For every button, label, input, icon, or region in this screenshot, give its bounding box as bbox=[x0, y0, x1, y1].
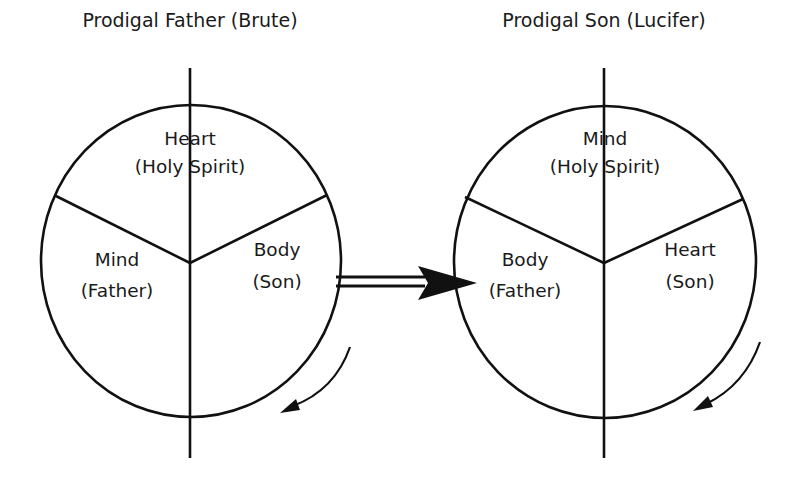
left-top-segment-name: Heart bbox=[164, 128, 216, 149]
right-diagram-title: Prodigal Son (Lucifer) bbox=[502, 9, 705, 31]
right-left-segment-name: Body bbox=[502, 249, 549, 270]
left-rotation-arrow-icon bbox=[280, 347, 350, 413]
left-diagram: Prodigal Father (Brute) Heart (Holy Spir… bbox=[41, 9, 350, 458]
right-diagram: Prodigal Son (Lucifer) Mind (Holy Spirit… bbox=[454, 9, 760, 458]
left-diagram-title: Prodigal Father (Brute) bbox=[82, 9, 297, 31]
left-left-segment-name: Mind bbox=[95, 249, 140, 270]
right-top-segment-role: (Holy Spirit) bbox=[550, 156, 660, 177]
right-top-segment-name: Mind bbox=[583, 128, 628, 149]
left-right-segment-role: (Son) bbox=[252, 271, 301, 292]
prodigal-diagram: Prodigal Father (Brute) Heart (Holy Spir… bbox=[0, 0, 801, 480]
right-right-segment-name: Heart bbox=[664, 239, 716, 260]
right-rotation-arrow-icon bbox=[693, 342, 760, 411]
right-right-segment-role: (Son) bbox=[665, 271, 714, 292]
left-top-segment-role: (Holy Spirit) bbox=[135, 156, 245, 177]
left-left-segment-role: (Father) bbox=[81, 280, 154, 301]
right-left-segment-role: (Father) bbox=[489, 280, 562, 301]
left-right-segment-name: Body bbox=[254, 239, 301, 260]
